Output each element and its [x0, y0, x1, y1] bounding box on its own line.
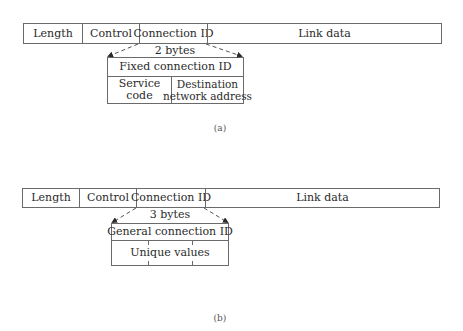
sub-header-a: Fixed connection ID	[108, 58, 243, 76]
service-code-field: Service code	[108, 77, 171, 103]
service-code-line2: code	[126, 90, 152, 102]
tick-mark	[148, 261, 149, 265]
field-connection-id-a: Connection ID	[140, 24, 207, 43]
caption-b: (b)	[200, 313, 240, 323]
tick-mark	[192, 241, 193, 245]
field-length-b: Length	[23, 189, 79, 207]
caption-a: (a)	[200, 123, 240, 133]
size-label-b: 3 bytes	[135, 208, 205, 221]
frame-b: Length Control Connection ID Link data	[22, 188, 440, 208]
unique-values-field: Unique values	[112, 241, 228, 265]
field-link-data-b: Link data	[206, 189, 439, 207]
connection-id-breakdown-a: Fixed connection ID Service code Destina…	[107, 57, 244, 104]
field-control-b: Control	[80, 189, 136, 207]
sub-header-b: General connection ID	[112, 224, 228, 240]
destination-network-address-field: Destination network address	[172, 77, 243, 103]
field-connection-id-b: Connection ID	[137, 189, 205, 207]
connection-id-breakdown-b: General connection ID Unique values	[111, 223, 229, 266]
expansion-arrows	[0, 0, 463, 331]
size-label-a: 2 bytes	[140, 44, 210, 57]
field-link-data-a: Link data	[208, 24, 441, 43]
tick-mark	[192, 261, 193, 265]
frame-a: Length Control Connection ID Link data	[23, 23, 442, 44]
destination-line1: Destination	[177, 78, 238, 90]
field-length-a: Length	[24, 24, 82, 43]
field-control-a: Control	[83, 24, 139, 43]
destination-line2: network address	[163, 90, 252, 102]
tick-mark	[148, 241, 149, 245]
